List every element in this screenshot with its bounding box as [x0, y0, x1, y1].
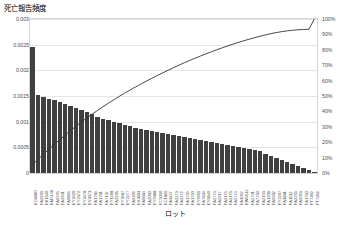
x-axis-tick-label: FA3427 [168, 175, 173, 205]
x-axis-tick-label: FA9093 [298, 175, 303, 205]
x-axis-tick-label: EY2277 [125, 175, 130, 205]
x-axis-tick-label: FT7282 [309, 175, 314, 205]
x-axis-tick-label: FT7282 [315, 175, 320, 205]
cumulative-line-series [30, 19, 317, 173]
y-axis-left-tick-label: 0 [0, 170, 29, 176]
x-axis-tick-label: FA9309 [131, 175, 136, 205]
y-axis-right-tick-label: 100% [322, 16, 348, 22]
x-axis-tick-labels: EC8080FA2903EK1540EM7446FA0795FA2901FA08… [29, 175, 318, 206]
x-axis-tick-label: FA0684 [141, 175, 146, 205]
y-axis-left-tick-label: 0.002 [0, 67, 29, 73]
x-axis-tick-label: FA1789 [93, 175, 98, 205]
x-axis-tick-label: FA1781 [98, 175, 103, 205]
y-axis-left-tick-label: 0.0025 [0, 42, 29, 48]
x-axis-tick-label: FA2701 [250, 175, 255, 205]
x-axis-title: ロット [0, 208, 350, 218]
y-axis-left-tick-label: 0.0005 [0, 144, 29, 150]
x-axis-tick-label: FA2917 [217, 175, 222, 205]
y-axis-left-tick-label: 0.0015 [0, 93, 29, 99]
x-axis-tick-label: FA1790 [190, 175, 195, 205]
y-axis-right-tick-label: 10% [322, 155, 348, 161]
x-axis-tick-label: FA0899 [66, 175, 71, 205]
y-axis-right-tick-label: 0% [322, 170, 348, 176]
x-axis-tick-label: FA2906 [114, 175, 119, 205]
y-axis-left-tick-label: 0.001 [0, 119, 29, 125]
y-axis-right-tick-label: 70% [322, 62, 348, 68]
x-axis-tick-label: FA3881 [282, 175, 287, 205]
x-axis-tick-label: FA2774 [233, 175, 238, 205]
y-axis-right-tick-label: 40% [322, 108, 348, 114]
x-axis-tick-label: FA2175 [223, 175, 228, 205]
y-axis-right-tick-label: 60% [322, 78, 348, 84]
x-axis-tick-label: EV3073 [87, 175, 92, 205]
pareto-chart: 死亡報告頻度 0.0030.00250.0020.00150.0010.0005… [0, 0, 350, 229]
x-axis-tick-label: EY2372 [76, 175, 81, 205]
y-axis-right-tick-label: 50% [322, 93, 348, 99]
x-axis-tick-label: FA7760 [255, 175, 260, 205]
x-axis-tick-label: EY9388 [152, 175, 157, 205]
x-axis-tick-label: EY3987 [120, 175, 125, 205]
x-axis-tick-label: FA2193 [261, 175, 266, 205]
x-axis-tick-label: FA2903 [39, 175, 44, 205]
cumulative-polyline [33, 19, 315, 165]
chart-title: 死亡報告頻度 [4, 2, 46, 13]
x-axis-tick-label: EM7446 [49, 175, 54, 205]
x-axis-tick-label: EC8080 [33, 175, 38, 205]
x-axis-tick-label: FA7137 [104, 175, 109, 205]
x-axis-tick-label: FC5090 [158, 175, 163, 205]
y-axis-right-tick-label: 30% [322, 124, 348, 130]
x-axis-tick-label: EW5512 [244, 175, 249, 205]
x-axis-tick-label: FA2272 [179, 175, 184, 205]
plot-area [29, 18, 318, 174]
x-axis-tick-label: EY9999 [196, 175, 201, 205]
y-axis-right-tick-label: 80% [322, 47, 348, 53]
y-axis-right-tick-label: 90% [322, 31, 348, 37]
x-axis-tick-label: FA1799 [185, 175, 190, 205]
x-axis-tick-label: FA9982 [271, 175, 276, 205]
y-axis-right-tick-label: 20% [322, 139, 348, 145]
x-axis-tick-label: FA1132 [288, 175, 293, 205]
x-axis-tick-label: FA2901 [60, 175, 65, 205]
y-axis-left-tick-label: 0.003 [0, 16, 29, 22]
x-axis-tick-label: EY6649 [206, 175, 211, 205]
